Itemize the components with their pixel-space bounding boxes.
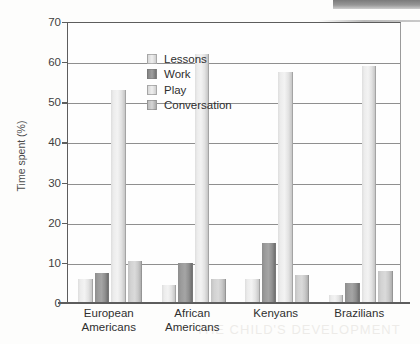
bar-conversation — [295, 275, 310, 303]
y-axis-title: Time spent (%) — [15, 91, 27, 221]
y-tick-label-10: 10 — [33, 257, 61, 269]
y-tick-label-40: 40 — [33, 136, 61, 148]
x-axis-line — [58, 302, 410, 304]
bar-play — [111, 90, 126, 303]
legend-item-lessons: Lessons — [147, 51, 232, 67]
bar-conversation — [128, 261, 143, 303]
y-tick-label-30: 30 — [33, 177, 61, 189]
x-category-label: Brazilians — [308, 307, 412, 321]
legend-swatch-icon — [147, 69, 157, 79]
bar-work — [262, 243, 277, 303]
legend-label: Conversation — [164, 99, 232, 111]
x-category-label-line: Brazilians — [308, 307, 412, 321]
y-tick-label-70: 70 — [33, 16, 61, 28]
bar-group — [235, 23, 319, 303]
legend-swatch-icon — [147, 85, 157, 95]
legend-label: Play — [164, 84, 186, 96]
legend-swatch-icon — [147, 54, 157, 64]
y-tick-label-50: 50 — [33, 96, 61, 108]
legend-swatch-icon — [147, 100, 157, 110]
bar-play — [278, 72, 293, 303]
scan-artifact-top-bar — [333, 0, 420, 9]
bar-chart-figure: Cultural Comparison THE CHILD'S DEVELOPM… — [0, 0, 420, 344]
bar-conversation — [378, 271, 393, 303]
y-tick-label-20: 20 — [33, 217, 61, 229]
bar-group — [319, 23, 403, 303]
bar-work — [345, 283, 360, 303]
legend-label: Work — [164, 68, 191, 80]
bar-work — [178, 263, 193, 303]
bar-lessons — [245, 279, 260, 303]
bar-group — [68, 23, 152, 303]
bar-lessons — [162, 285, 177, 303]
bar-work — [95, 273, 110, 303]
bar-conversation — [211, 279, 226, 303]
plot-area: LessonsWorkPlayConversation — [67, 22, 401, 303]
y-tick-label-60: 60 — [33, 56, 61, 68]
legend-label: Lessons — [164, 53, 207, 65]
x-category-label-line: Americans — [141, 321, 245, 335]
chart-legend: LessonsWorkPlayConversation — [147, 51, 232, 113]
legend-item-work: Work — [147, 67, 232, 83]
legend-item-conversation: Conversation — [147, 98, 232, 114]
bar-lessons — [78, 279, 93, 303]
legend-item-play: Play — [147, 82, 232, 98]
bar-play — [362, 66, 377, 303]
